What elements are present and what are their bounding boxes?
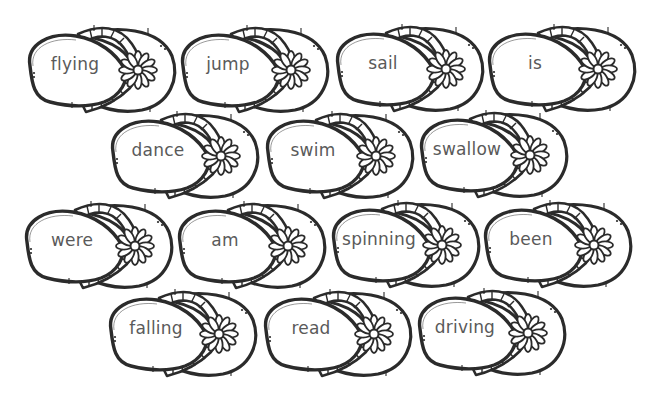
word-label: flying [28,52,122,76]
word-card: is [480,21,638,113]
word-label: were [25,228,119,252]
word-card: driving [410,285,568,377]
word-card: am [170,198,328,290]
word-label: jump [181,52,275,76]
word-card: read [256,286,414,378]
word-card: swallow [412,107,570,199]
word-card: dance [103,108,261,200]
word-label: swim [266,138,360,162]
word-label: spinning [332,227,426,251]
word-card: jump [173,22,331,114]
word-label: swallow [420,137,514,161]
word-card: were [17,198,175,290]
word-card: been [476,197,634,289]
word-label: is [488,51,582,75]
word-card: sail [328,21,486,113]
word-label: sail [336,51,430,75]
word-label: falling [109,316,203,340]
word-card: flying [20,22,178,114]
word-card: swim [258,108,416,200]
word-card: falling [101,286,259,378]
word-card: spinning [324,197,482,289]
word-label: read [264,316,358,340]
word-label: am [178,228,272,252]
word-label: dance [111,138,205,162]
word-label: driving [418,315,512,339]
worksheet: flying jump sail is dance swim swallow w… [0,0,653,398]
word-label: been [484,227,578,251]
